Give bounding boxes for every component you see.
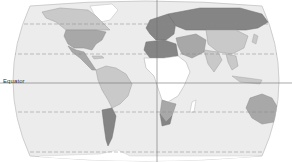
region-new-zealand [282, 124, 288, 134]
equator-label: Equator [3, 78, 25, 84]
world-map: Equator [0, 0, 292, 162]
world-map-svg [0, 0, 292, 162]
region-russia [168, 8, 268, 30]
